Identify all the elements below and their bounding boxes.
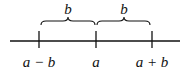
brace-label-right: b: [120, 1, 128, 17]
brace-left: [41, 17, 95, 25]
brace-right: [97, 17, 150, 25]
brace-label-left: b: [64, 1, 72, 17]
number-line-diagram: b b a − b a a + b: [0, 0, 187, 73]
point-label-a-minus-b: a − b: [23, 54, 56, 70]
point-label-a: a: [92, 54, 100, 70]
point-label-a-plus-b: a + b: [136, 54, 169, 70]
